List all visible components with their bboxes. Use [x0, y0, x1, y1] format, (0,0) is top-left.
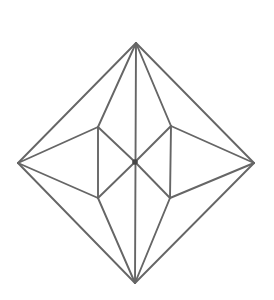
diagram-edge-LL-C — [98, 162, 135, 198]
center-vertex-dot — [132, 159, 138, 165]
diagram-edge-L-UL — [18, 127, 98, 163]
diagram-edge-B-LL — [98, 198, 135, 283]
diagram-edge-T-R — [136, 43, 254, 163]
diagram-edge-UR-LR — [170, 126, 171, 198]
diagram-edge-R-UR — [171, 126, 254, 163]
geometry-diagram — [0, 0, 274, 300]
geometry-figure — [0, 0, 274, 300]
diagram-edge-UL-C — [98, 127, 135, 162]
diagram-edge-B-LR — [135, 198, 170, 283]
diagram-edge-LR-C — [135, 162, 170, 198]
diagram-edge-R-LR — [170, 163, 254, 198]
diagram-edge-UR-C — [135, 126, 171, 162]
diagram-edge-L-LL — [18, 163, 98, 198]
diagram-edge-T-UR — [136, 43, 171, 126]
diagram-edge-T-UL — [98, 43, 136, 127]
diagram-edge-B-L — [18, 163, 135, 283]
